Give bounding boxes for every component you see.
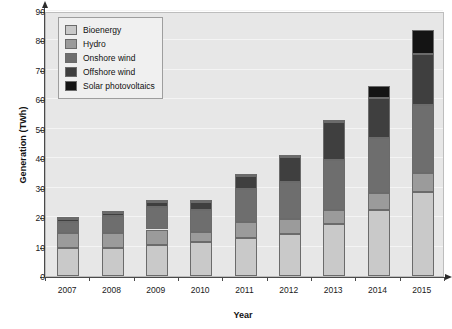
legend-label: Bioenergy [83,25,121,35]
bar-segment[interactable] [190,200,212,202]
y-tick-label: 80 [9,36,45,46]
x-tick [89,277,90,281]
bar-segment[interactable] [190,242,212,276]
bar-segment[interactable] [235,176,257,189]
legend-swatch-icon [65,53,77,63]
bar-segment[interactable] [368,86,390,98]
x-tick [134,277,135,281]
bar-segment[interactable] [102,213,124,216]
bar-segment[interactable] [279,182,301,219]
x-tick-label: 2008 [92,285,132,295]
bar-segment[interactable] [412,192,434,276]
x-tick-label: 2013 [313,285,353,295]
bar-segment[interactable] [412,105,434,173]
bar-segment[interactable] [146,202,168,206]
bar-segment[interactable] [323,120,345,122]
bar-segment[interactable] [412,54,434,106]
bar-segment[interactable] [412,173,434,192]
bar[interactable] [102,212,124,276]
legend-item[interactable]: Onshore wind [65,51,155,65]
bar-segment[interactable] [146,230,168,246]
bar-segment[interactable] [323,160,345,211]
legend-label: Solar photovoltaics [83,81,155,91]
y-tick-label: 30 [9,184,45,194]
x-tick-label: 2014 [358,285,398,295]
x-tick [267,277,268,281]
x-tick [355,277,356,281]
bar-segment[interactable] [368,98,390,138]
legend: BioenergyHydroOnshore windOffshore windS… [58,17,163,99]
legend-item[interactable]: Bioenergy [65,23,155,37]
bar-segment[interactable] [279,219,301,234]
bar[interactable] [412,30,434,276]
y-tick-label: 0 [9,272,45,282]
bar-segment[interactable] [235,238,257,276]
legend-item[interactable]: Hydro [65,37,155,51]
bar-segment[interactable] [102,211,124,213]
bar[interactable] [323,120,345,276]
y-axis-ticks: 0102030405060708090 [0,0,45,329]
x-tick-label: 2010 [180,285,220,295]
legend-swatch-icon [65,25,77,35]
bar-segment[interactable] [323,210,345,223]
bar-segment[interactable] [190,232,212,242]
x-tick-label: 2009 [136,285,176,295]
legend-label: Hydro [83,39,106,49]
y-tick-label: 90 [9,7,45,17]
x-axis-title: Year [41,310,445,320]
x-axis-arrow-icon [445,274,452,280]
bar-segment[interactable] [57,233,79,248]
bar-segment[interactable] [190,210,212,233]
bar-segment[interactable] [102,233,124,248]
legend-item[interactable]: Solar photovoltaics [65,79,155,93]
y-tick-label: 50 [9,125,45,135]
bar-segment[interactable] [57,248,79,276]
bar[interactable] [146,202,168,276]
y-tick-label: 10 [9,243,45,253]
y-tick-label: 20 [9,213,45,223]
stacked-bar-chart: Generation (TWh) Year 010203040506070809… [0,0,452,329]
bar-segment[interactable] [279,157,301,181]
gridline [46,10,443,11]
bar[interactable] [368,86,390,276]
bar[interactable] [235,174,257,276]
bar-segment[interactable] [368,138,390,193]
bar[interactable] [279,155,301,276]
y-tick-label: 70 [9,66,45,76]
bar-segment[interactable] [368,193,390,210]
bar-segment[interactable] [235,222,257,238]
x-tick-label: 2015 [402,285,442,295]
bar-segment[interactable] [235,174,257,176]
y-tick-label: 60 [9,95,45,105]
bar-segment[interactable] [323,122,345,160]
bar-segment[interactable] [323,224,345,276]
bar[interactable] [57,218,79,276]
x-tick [222,277,223,281]
bar-segment[interactable] [146,207,168,230]
legend-item[interactable]: Offshore wind [65,65,155,79]
legend-swatch-icon [65,39,77,49]
bar-segment[interactable] [368,210,390,276]
x-tick [444,277,445,281]
legend-label: Onshore wind [83,53,135,63]
x-tick-label: 2007 [47,285,87,295]
bar[interactable] [190,200,212,276]
bar-segment[interactable] [412,30,434,54]
bar-segment[interactable] [57,217,79,219]
x-tick [45,277,46,281]
bar-segment[interactable] [146,245,168,276]
bar-segment[interactable] [279,155,301,157]
x-tick [311,277,312,281]
bar-segment[interactable] [57,222,79,233]
bar-segment[interactable] [146,200,168,202]
legend-label: Offshore wind [83,67,135,77]
bar-segment[interactable] [190,202,212,210]
x-tick-label: 2011 [225,285,265,295]
bar-segment[interactable] [235,189,257,221]
x-tick-label: 2012 [269,285,309,295]
bar-segment[interactable] [57,219,79,222]
x-tick [178,277,179,281]
bar-segment[interactable] [279,234,301,276]
bar-segment[interactable] [102,248,124,276]
bar-segment[interactable] [102,216,124,234]
